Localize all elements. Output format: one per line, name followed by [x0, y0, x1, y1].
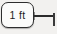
map-scale-bar[interactable]: 1 ft: [0, 0, 57, 34]
scale-end-tick-icon: [53, 13, 55, 26]
scale-ruler-line-icon: [34, 15, 55, 17]
scale-distance-pill[interactable]: 1 ft: [1, 2, 34, 28]
scale-distance-label: 1 ft: [10, 9, 26, 20]
